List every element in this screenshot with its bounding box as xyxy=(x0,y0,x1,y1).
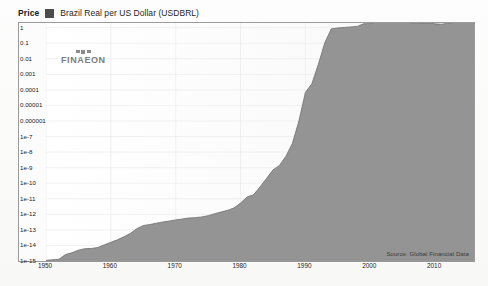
y-tick-label: 1e-13 xyxy=(20,225,36,232)
y-tick-label: 1e-7 xyxy=(20,132,32,139)
area-fill xyxy=(46,23,474,261)
legend-color-swatch xyxy=(45,9,54,18)
y-tick-label: 0.00001 xyxy=(20,101,42,108)
chart-screenshot: Price Brazil Real per US Dollar (USDBRL)… xyxy=(0,0,488,286)
legend-series-label: Brazil Real per US Dollar (USDBRL) xyxy=(60,8,199,18)
plot-frame: Brazil Real per US Dollar shows the succ… xyxy=(18,22,475,262)
chart-legend: Price Brazil Real per US Dollar (USDBRL) xyxy=(18,6,199,20)
y-tick-label: 0.000001 xyxy=(20,117,46,124)
y-tick-label: 0.001 xyxy=(20,70,35,77)
y-tick-label: 1e-10 xyxy=(20,179,36,186)
x-tick-label: 1990 xyxy=(297,262,311,269)
series-layer xyxy=(46,23,474,261)
y-tick-label: 1e-11 xyxy=(20,194,35,201)
price-label: Price xyxy=(18,8,39,18)
y-tick-label: 0.0001 xyxy=(20,85,39,92)
y-tick-label: 1e-15 xyxy=(20,257,36,264)
y-tick-label: 0.1 xyxy=(20,39,29,46)
y-tick-label: 1 xyxy=(20,23,23,30)
x-tick-label: 1950 xyxy=(38,262,52,269)
x-tick-label: 2010 xyxy=(427,262,441,269)
x-tick-label: 1970 xyxy=(168,262,182,269)
y-tick-label: 1e-8 xyxy=(20,148,32,155)
x-tick-label: 1960 xyxy=(103,262,117,269)
y-tick-label: 1e-9 xyxy=(20,163,32,170)
y-tick-label: 1e-12 xyxy=(20,210,36,217)
y-tick-label: 0.01 xyxy=(20,54,32,61)
plot-area xyxy=(46,23,474,261)
x-tick-label: 2000 xyxy=(362,262,376,269)
x-tick-label: 1980 xyxy=(232,262,246,269)
y-tick-label: 1e-14 xyxy=(20,241,36,248)
source-note: Source: Global Financial Data xyxy=(386,251,469,257)
